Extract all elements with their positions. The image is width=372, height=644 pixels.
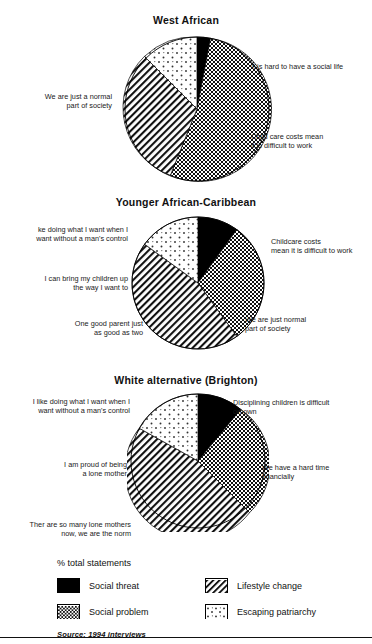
legend-label-escaping-patriarchy: Escaping patriarchy (237, 607, 316, 617)
social-problem-pattern-icon (58, 606, 79, 619)
chart-title-younger-african-caribbean: Younger African-Caribbean (0, 196, 372, 208)
pie3-label-mans-control: I like doing what I want when I want wit… (0, 397, 130, 415)
pie3-label-disciplining-children: Disciplining children is difficult on ow… (233, 398, 372, 416)
legend-label-lifestyle-change: Lifestyle change (237, 581, 302, 591)
chart-block-white-alternative-brighton: White alternative (Brighton) Disciplinin… (0, 370, 372, 555)
legend-swatch-lifestyle-change (205, 578, 228, 593)
pie3-label-proud-lone-mother: I am proud of being a lone mother (22, 460, 127, 478)
pie2-label-normal-part-of-society: We are just normal part of society (245, 315, 355, 333)
lifestyle-change-pattern-icon (206, 580, 227, 593)
pie-chart-west-african (121, 33, 273, 185)
pie3-label-hard-time-financially: We have a hard time financially (262, 463, 370, 481)
legend-title: % total statements (57, 558, 131, 568)
pie1-label-child-care-costs: Child care costs mean it is difficult to… (251, 132, 369, 150)
legend-swatch-escaping-patriarchy (205, 604, 228, 619)
legend-label-social-threat: Social threat (89, 581, 139, 591)
legend-label-social-problem: Social problem (89, 607, 149, 617)
escaping-patriarchy-pattern-icon (206, 606, 227, 619)
chart-title-west-african: West African (0, 14, 372, 26)
legend-item-escaping-patriarchy: Escaping patriarchy (205, 604, 316, 619)
pie2-label-one-good-parent: One good parent just as good as two (38, 319, 143, 337)
pie3-label-so-many-lone-mothers: Ther are so many lone mothers now, we ar… (16, 520, 131, 538)
pie2-label-bring-children-up: I can bring my children up the way I wan… (12, 274, 128, 292)
pie-svg-1 (121, 33, 273, 185)
legend-item-lifestyle-change: Lifestyle change (205, 578, 302, 593)
legend-item-social-problem: Social problem (57, 604, 149, 619)
legend-swatch-social-problem (57, 604, 80, 619)
chart-title-white-alternative: White alternative (Brighton) (0, 374, 372, 386)
bottom-divider (0, 637, 372, 638)
legend-swatch-social-threat (57, 578, 80, 593)
legend: % total statements Social threat Lifesty… (0, 556, 372, 644)
pie2-label-escaping-mans-control: ke doing what I want when I want without… (0, 225, 128, 243)
chart-block-younger-african-caribbean: Younger African-Caribbean Childcare cost… (0, 190, 372, 380)
figure-three-pie-charts: West African It is hard to have a social… (0, 0, 372, 644)
chart-block-west-african: West African It is hard to have a social… (0, 0, 372, 195)
pie1-label-social-life: It is hard to have a social life (251, 62, 371, 71)
pie1-label-normal-part-of-society: We are just a normal part of society (12, 92, 112, 110)
legend-item-social-threat: Social threat (57, 578, 139, 593)
pie2-label-childcare-costs: Childcare costs mean it is difficult to … (271, 237, 372, 255)
